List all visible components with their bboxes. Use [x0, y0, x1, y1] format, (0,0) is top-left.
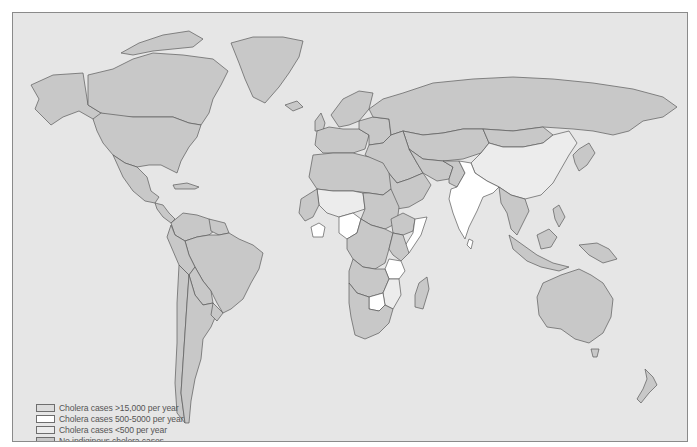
- legend-swatch-high: [36, 404, 55, 412]
- country-iceland: [285, 101, 303, 111]
- country-uk: [315, 113, 325, 131]
- country-mali-niger: [317, 189, 365, 217]
- legend-label-mid: Cholera cases 500-5000 per year: [59, 414, 183, 424]
- legend-swatch-none: [36, 437, 55, 443]
- map-frame: Cholera cases >15,000 per year Cholera c…: [12, 12, 688, 442]
- legend-item-mid: Cholera cases 500-5000 per year: [36, 413, 183, 424]
- country-philippines: [553, 205, 565, 227]
- country-greenland: [231, 37, 303, 103]
- country-russia: [369, 77, 677, 135]
- country-central-america: [155, 203, 175, 223]
- legend-swatch-mid: [36, 415, 55, 423]
- country-new-guinea: [579, 243, 617, 263]
- country-tasmania: [591, 349, 599, 357]
- country-canada-arctic-islands: [121, 31, 203, 55]
- country-new-zealand: [637, 369, 657, 403]
- country-madagascar: [415, 277, 429, 309]
- world-map: [13, 13, 688, 442]
- legend-label-low: Cholera cases <500 per year: [59, 425, 167, 435]
- country-australia: [537, 269, 613, 343]
- country-caribbean: [173, 183, 199, 189]
- legend-label-none: No indiginous cholera cases: [59, 436, 164, 443]
- legend-item-low: Cholera cases <500 per year: [36, 424, 183, 435]
- country-korea-japan: [573, 143, 595, 171]
- legend-item-high: Cholera cases >15,000 per year: [36, 402, 183, 413]
- country-ghana-west-africa: [311, 223, 325, 237]
- legend-label-high: Cholera cases >15,000 per year: [59, 403, 179, 413]
- legend-swatch-low: [36, 426, 55, 434]
- country-kenya: [389, 233, 409, 261]
- country-borneo: [537, 229, 557, 249]
- map-legend: Cholera cases >15,000 per year Cholera c…: [36, 402, 183, 442]
- legend-item-none: No indiginous cholera cases: [36, 435, 183, 442]
- country-western-europe: [315, 127, 369, 153]
- country-west-coast: [299, 189, 319, 221]
- country-sri-lanka: [467, 239, 473, 249]
- country-usa: [93, 113, 201, 173]
